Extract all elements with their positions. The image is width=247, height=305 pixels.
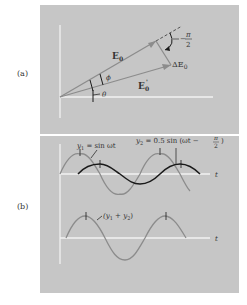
e0-arrowhead-icon xyxy=(148,41,156,48)
phi-marker-2 xyxy=(90,80,93,91)
panel-a-label: (a) xyxy=(17,69,28,78)
delta-e0-label: ΔE0 xyxy=(172,60,188,70)
sum-label: (y1 + y2) xyxy=(103,212,133,221)
phi-marker xyxy=(100,74,103,85)
e0-label: E0 xyxy=(112,51,123,62)
t-axis-label-bottom: t xyxy=(215,235,218,243)
y1-leader xyxy=(91,150,97,158)
y2-frac-den: 2 xyxy=(214,142,218,149)
phasor-diagram: E0 ΔE0 E0' ϕ θ − π 2 xyxy=(40,5,239,134)
y1-equation: y1 = sin ωt xyxy=(76,142,116,151)
panel-b-label: (b) xyxy=(17,202,28,211)
t-axis-label-top: t xyxy=(215,171,218,179)
right-angle-num: π xyxy=(185,31,191,39)
delta-e0-vector xyxy=(156,41,171,65)
theta-leader xyxy=(93,94,100,95)
y2-close-paren: ) xyxy=(221,137,224,145)
e0-prime-arrowhead-icon xyxy=(162,64,171,70)
sum-leader xyxy=(97,216,102,220)
phi-label: ϕ xyxy=(106,74,111,82)
e0-prime-vector xyxy=(60,65,171,97)
right-angle-den: 2 xyxy=(186,41,190,49)
y2-frac-num: π xyxy=(213,136,219,141)
e0-prime-label: E0' xyxy=(138,78,149,92)
y2-equation: y2 = 0.5 sin (ωt − xyxy=(135,137,199,146)
wave-plots: y1 = sin ωt y2 = 0.5 sin (ωt − π 2 ) (y1… xyxy=(40,136,239,293)
theta-label: θ xyxy=(102,91,107,99)
panel-b-wave-superposition: y1 = sin ωt y2 = 0.5 sin (ωt − π 2 ) (y1… xyxy=(40,136,239,293)
panel-a-phasor-diagram: E0 ΔE0 E0' ϕ θ − π 2 xyxy=(40,5,239,134)
